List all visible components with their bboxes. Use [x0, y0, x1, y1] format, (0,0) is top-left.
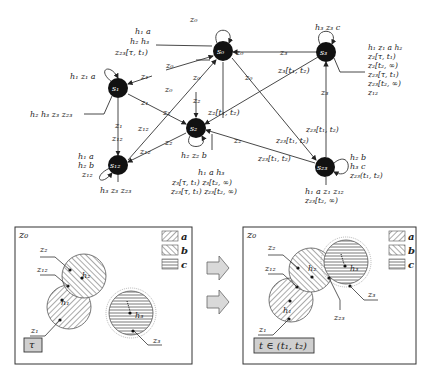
svg-text:z₂₃[t₂, ∞): z₂₃[t₂, ∞) [304, 196, 338, 205]
svg-text:h₁: h₁ [283, 306, 291, 315]
right-arrow-icon [207, 256, 229, 280]
svg-text:b: b [181, 245, 188, 256]
diagram-canvas: s₀ s₁ s₂ s₃ s₁₂ s₂₃ z₀ h₁ a h₂ h₃ z₂₃[τ,… [0, 0, 438, 375]
svg-text:a: a [181, 231, 187, 242]
right-arrow-icon [207, 290, 229, 314]
svg-text:z₃: z₃ [279, 48, 287, 57]
svg-text:z₃: z₃ [320, 88, 328, 97]
svg-text:z₂₃[τ, t₁): z₂₃[τ, t₁) [367, 70, 399, 79]
svg-text:h₁ z₁ a h₂: h₁ z₁ a h₂ [368, 43, 402, 52]
svg-text:z₀: z₀ [192, 73, 201, 82]
svg-text:z₁₂: z₁₂ [111, 134, 123, 143]
svg-text:z₃: z₃ [152, 336, 160, 345]
svg-text:z₂₃[τ, t₁) z₂₃[t₂, ∞): z₂₃[τ, t₁) z₂₃[t₂, ∞) [170, 187, 237, 196]
svg-text:h₁ a h₃: h₁ a h₃ [198, 168, 225, 177]
svg-text:s₁₂: s₁₂ [110, 161, 121, 170]
svg-text:z₁₂: z₁₂ [264, 264, 276, 273]
svg-text:s₃: s₃ [320, 48, 327, 57]
svg-text:h₁ z₁ a: h₁ z₁ a [70, 72, 96, 81]
svg-text:z₁: z₁ [114, 121, 122, 130]
svg-text:z₀: z₀ [189, 15, 198, 24]
svg-text:z₂: z₂ [267, 243, 275, 252]
svg-text:z₁: z₁ [258, 325, 266, 334]
svg-text:t ∈ (t₁, t₂): t ∈ (t₁, t₂) [259, 340, 307, 351]
svg-text:z₁₂: z₁₂ [81, 170, 93, 179]
svg-text:h₁ a z₁ z₁₂: h₁ a z₁ z₁₂ [305, 187, 344, 196]
svg-text:h₁ a: h₁ a [135, 27, 151, 36]
svg-text:z₁: z₁ [140, 98, 148, 107]
svg-text:s₂₃: s₂₃ [317, 163, 328, 172]
svg-text:z₀: z₀ [164, 85, 173, 94]
svg-text:h₂ h₃: h₂ h₃ [130, 37, 149, 46]
panel-t-interval: z₀ z₂ z₁₂ h₂ h₁ z₁ h₃ z₃ z₂₃ t ∈ (t₁, t₂… [243, 227, 416, 364]
svg-text:h₃ z₃ c: h₃ z₃ c [315, 23, 341, 32]
svg-text:c: c [181, 259, 187, 270]
svg-text:h₃ z₃ z₂₃: h₃ z₃ z₂₃ [100, 186, 132, 195]
svg-text:s₀: s₀ [217, 47, 225, 56]
svg-text:z₂₃(t₁, t₂): z₂₃(t₁, t₂) [349, 171, 383, 180]
svg-text:z₂₃: z₂₃ [333, 313, 345, 322]
svg-text:c: c [408, 259, 414, 270]
svg-text:h₃: h₃ [350, 264, 358, 273]
circle-h3 [324, 240, 368, 284]
svg-text:h₁ a: h₁ a [78, 152, 94, 161]
node-s12: s₁₂ [108, 155, 128, 175]
svg-text:z₁₂: z₁₂ [36, 265, 48, 274]
svg-text:z₂: z₂ [39, 245, 47, 254]
node-s0: s₀ [213, 41, 233, 61]
svg-text:z₂₃[t₁, t₂): z₂₃[t₁, t₂) [257, 154, 291, 163]
svg-text:z₂[τ, t₁): z₂[τ, t₁) [367, 52, 396, 61]
svg-text:z₁: z₁ [30, 326, 38, 335]
svg-text:z₃: z₃ [367, 290, 375, 299]
svg-text:h₂: h₂ [308, 264, 316, 273]
svg-text:z₁₂: z₁₂ [137, 124, 149, 133]
svg-text:h₃: h₃ [135, 311, 143, 320]
svg-text:z₁₂: z₁₂ [367, 88, 378, 97]
svg-text:z₂₃[t₂, ∞): z₂₃[t₂, ∞) [367, 79, 401, 88]
svg-text:h₁: h₁ [61, 298, 69, 307]
svg-text:z₀: z₀ [165, 61, 174, 70]
svg-text:z₂[t₂, ∞): z₂[t₂, ∞) [367, 61, 398, 70]
svg-text:z₂: z₂ [192, 96, 200, 105]
svg-text:z₂₃[τ, t₁): z₂₃[τ, t₁) [114, 48, 148, 57]
svg-text:z₀: z₀ [244, 73, 253, 82]
svg-text:z₂₃[t₁, t₂): z₂₃[t₁, t₂) [275, 136, 309, 145]
svg-text:z₂: z₂ [164, 138, 172, 147]
svg-text:h₂ b: h₂ b [78, 161, 94, 170]
svg-text:z₁₂: z₁₂ [139, 147, 151, 156]
svg-text:z₃[t₁, t₂): z₃[t₁, t₂) [277, 66, 310, 75]
panel-tau: z₀ z₂ z₁₂ h₂ h₁ z₁ h₃ z₃ τ a b [15, 227, 192, 364]
svg-text:z₁: z₁ [140, 72, 148, 81]
svg-text:z₂: z₂ [233, 136, 241, 145]
node-s3: s₃ [316, 42, 336, 62]
svg-text:z₂[t₁, t₂): z₂[t₁, t₂) [207, 108, 240, 117]
svg-text:z₂₃[t₁, t₂): z₂₃[t₁, t₂) [305, 125, 339, 134]
svg-text:h₂ b: h₂ b [350, 153, 366, 162]
svg-text:h₂ z₂ b: h₂ z₂ b [181, 151, 207, 160]
svg-text:s₁: s₁ [112, 84, 119, 93]
node-s2: s₂ [186, 118, 206, 138]
node-s23: s₂₃ [315, 157, 335, 177]
svg-text:h₃ c: h₃ c [350, 162, 366, 171]
svg-text:z₀: z₀ [246, 229, 256, 240]
svg-text:z₀: z₀ [235, 48, 244, 57]
svg-text:τ: τ [29, 339, 35, 350]
svg-text:h₂: h₂ [82, 271, 90, 280]
svg-text:h₂ h₃ z₃ z₂₃: h₂ h₃ z₃ z₂₃ [30, 110, 72, 119]
svg-text:z₀: z₀ [18, 229, 28, 240]
svg-text:z₃[τ, t₁) z₃[t₂, ∞): z₃[τ, t₁) z₃[t₂, ∞) [171, 178, 232, 187]
transition-arrows [207, 256, 229, 314]
svg-text:b: b [408, 245, 415, 256]
svg-text:z₂: z₂ [162, 108, 170, 117]
node-s1: s₁ [108, 78, 128, 98]
svg-text:a: a [408, 231, 414, 242]
svg-text:s₂: s₂ [190, 124, 197, 133]
